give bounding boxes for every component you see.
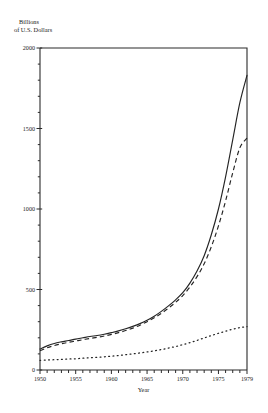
y-tick-label: 0 <box>32 367 35 373</box>
x-tick-label: 1950 <box>34 376 46 382</box>
x-axis-title: Year <box>138 386 151 393</box>
chart-container: 0500100015002000195019551960196519701975… <box>0 0 268 413</box>
y-tick-label: 1500 <box>23 126 35 132</box>
x-tick-label: 1975 <box>212 376 224 382</box>
y-axis-title-line1: Billions <box>19 18 39 25</box>
x-tick-label: 1960 <box>105 376 117 382</box>
series-dashed <box>40 138 247 351</box>
y-tick-label: 500 <box>26 287 35 293</box>
y-tick-label: 1000 <box>23 206 35 212</box>
x-tick-label: 1970 <box>177 376 189 382</box>
series-dotted <box>40 327 247 361</box>
series-solid <box>40 75 247 349</box>
line-chart: 0500100015002000195019551960196519701975… <box>0 0 268 413</box>
y-axis-title-line2: of U.S. Dollars <box>14 26 53 33</box>
x-tick-label: 1979 <box>241 376 253 382</box>
y-tick-label: 2000 <box>23 45 35 51</box>
x-tick-label: 1965 <box>141 376 153 382</box>
x-tick-label: 1955 <box>70 376 82 382</box>
